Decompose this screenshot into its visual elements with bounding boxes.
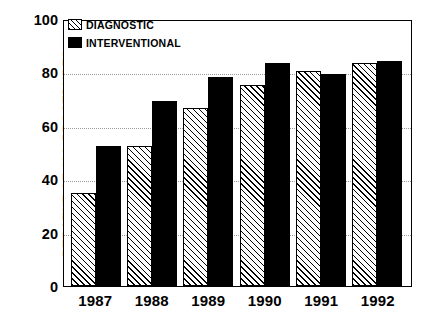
x-tick-label-1987: 1987 [67,292,124,309]
y-tick-label-60: 60 [16,120,58,135]
y-tick-label-40: 40 [16,173,58,188]
y-tick-label-100: 100 [16,13,58,28]
plot-area [63,20,412,287]
x-tick-label-1990: 1990 [237,292,294,309]
x-tick-label-1991: 1991 [293,292,350,309]
x-tick-label-1989: 1989 [180,292,237,309]
bar-interventional-1988[interactable] [152,101,177,287]
y-tick-label-20: 20 [16,227,58,242]
legend-item-diagnostic[interactable]: DIAGNOSTIC [68,17,181,32]
bar-group-1987 [68,21,124,286]
legend-item-interventional[interactable]: INTERVENTIONAL [68,35,181,50]
x-tick-label-1988: 1988 [124,292,181,309]
solid-swatch-icon [68,37,82,48]
y-tick-label-80: 80 [16,66,58,81]
chart-legend: DIAGNOSTIC INTERVENTIONAL [68,17,181,53]
bar-group-1991 [293,21,349,286]
bar-interventional-1990[interactable] [265,63,290,286]
bar-group-1992 [349,21,405,286]
bar-interventional-1991[interactable] [321,74,346,286]
chart-screenshot: PERCENT OF ALL PROCEDURES 100 80 60 40 2… [0,0,427,324]
y-tick-label-0: 0 [16,280,58,295]
bars-container [64,21,411,286]
legend-label-diagnostic: DIAGNOSTIC [86,19,154,31]
bar-diagnostic-1990[interactable] [240,85,265,286]
bar-diagnostic-1988[interactable] [127,146,152,286]
bar-group-1990 [237,21,293,286]
bar-group-1988 [124,21,180,286]
legend-label-interventional: INTERVENTIONAL [86,37,181,49]
bar-interventional-1992[interactable] [377,61,402,286]
bar-interventional-1987[interactable] [96,146,121,286]
bar-diagnostic-1991[interactable] [296,71,321,286]
x-tick-label-1992: 1992 [350,292,407,309]
bar-diagnostic-1989[interactable] [183,108,208,286]
bar-diagnostic-1992[interactable] [352,63,377,286]
hatch-swatch-icon [68,19,82,30]
x-axis-labels: 1987 1988 1989 1990 1991 1992 [63,292,412,309]
bar-diagnostic-1987[interactable] [71,193,96,286]
bar-interventional-1989[interactable] [208,77,233,286]
bar-group-1989 [180,21,236,286]
